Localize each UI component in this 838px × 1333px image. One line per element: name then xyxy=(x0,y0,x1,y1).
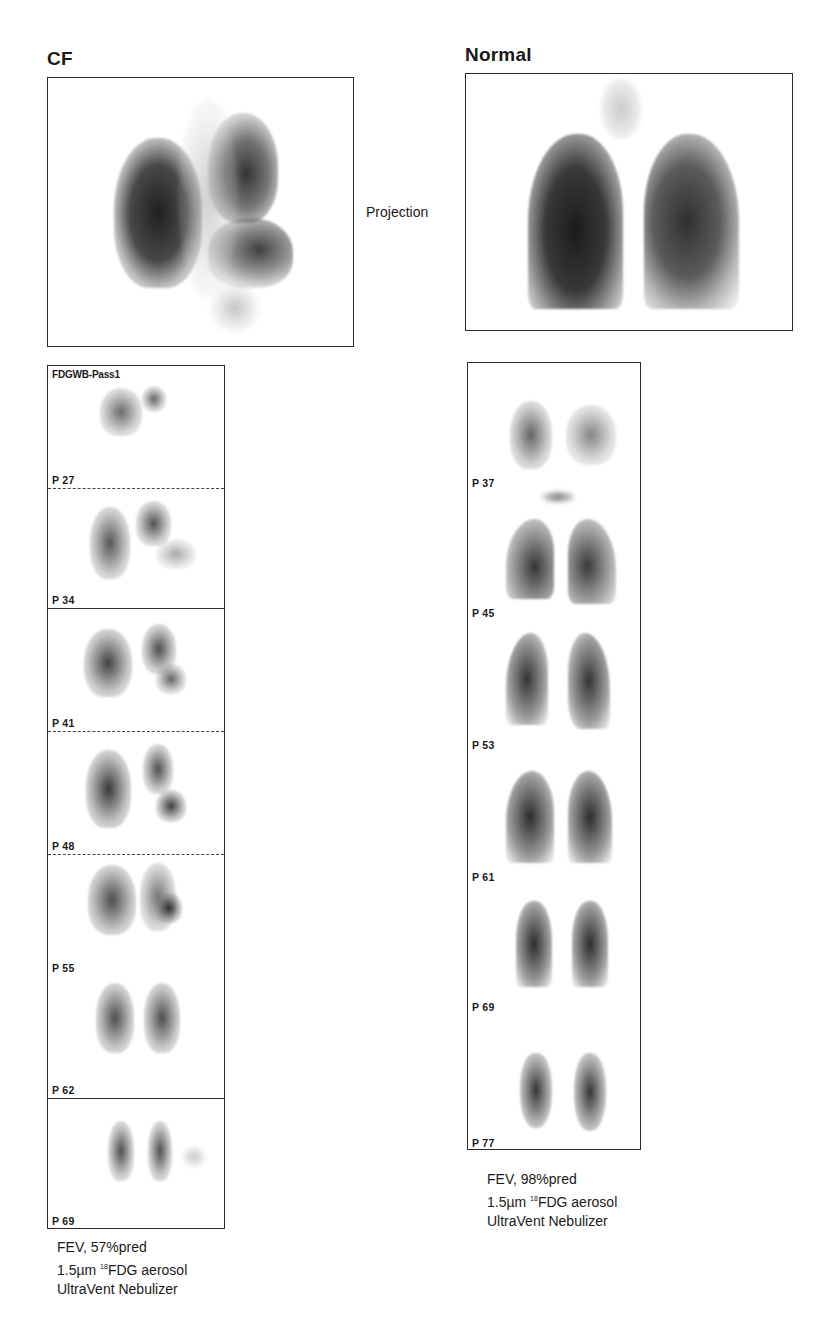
lung-uptake xyxy=(568,633,610,729)
slice-label: P 77 xyxy=(472,1137,495,1149)
normal-slice-p77: P 77 xyxy=(468,1015,640,1150)
normal-trachea-haze xyxy=(601,79,641,139)
lung-uptake xyxy=(572,901,608,987)
cf-slice-p55: P 55 xyxy=(48,854,224,976)
lung-uptake xyxy=(506,633,548,725)
cf-slice-p27: P 27 xyxy=(48,366,224,488)
lung-uptake xyxy=(506,771,554,863)
slice-label: P 55 xyxy=(52,962,75,974)
normal-projection-image xyxy=(465,73,793,331)
normal-slice-strip: P 37 P 45 P 53 P 61 P 69 P 77 xyxy=(467,362,641,1150)
normal-caption-aerosol: 1.5µm 18FDG aerosol xyxy=(487,1189,617,1212)
cf-slice-strip: FDGWB-Pass1 P 27 P 34 P 41 P 48 P 55 xyxy=(47,365,225,1001)
normal-slice-p69: P 69 xyxy=(468,885,640,1015)
normal-caption-nebulizer: UltraVent Nebulizer xyxy=(487,1212,617,1231)
normal-slice-p37: P 37 xyxy=(468,363,640,491)
cf-title: CF xyxy=(47,48,73,70)
normal-slice-p53: P 53 xyxy=(468,621,640,753)
cf-slice-p48: P 48 xyxy=(48,731,224,854)
cf-stomach-haze xyxy=(210,283,260,333)
normal-slice-p61: P 61 xyxy=(468,753,640,885)
cf-slice-p69: P 69 xyxy=(48,1098,224,1229)
slice-label: P 53 xyxy=(472,739,495,751)
lung-uptake xyxy=(516,901,552,987)
lung-uptake xyxy=(96,983,134,1053)
lung-uptake xyxy=(574,1053,606,1131)
slice-label: P 45 xyxy=(472,607,495,619)
normal-right-lung-uptake xyxy=(644,134,739,309)
cf-slice-strip-lower: P 62 P 69 xyxy=(47,975,225,1229)
slice-label: P 34 xyxy=(52,594,75,606)
cf-slice-p41: P 41 xyxy=(48,608,224,731)
cf-slice-p34: P 34 xyxy=(48,488,224,608)
projection-label: Projection xyxy=(366,204,428,220)
slice-label: P 37 xyxy=(472,477,495,489)
lung-uptake xyxy=(84,629,132,697)
cf-caption: FEV, 57%pred 1.5µm 18FDG aerosol UltraVe… xyxy=(57,1238,187,1299)
slice-label: P 62 xyxy=(52,1084,75,1096)
lung-uptake xyxy=(86,750,131,828)
cf-slice-p62: P 62 xyxy=(48,975,224,1098)
lung-uptake xyxy=(148,1121,172,1181)
normal-caption: FEV, 98%pred 1.5µm 18FDG aerosol UltraVe… xyxy=(487,1170,617,1231)
slice-label: P 61 xyxy=(472,871,495,883)
cf-projection-image xyxy=(47,77,354,347)
cf-mediastinum-haze xyxy=(178,98,238,298)
slice-label: P 48 xyxy=(52,840,75,852)
lung-uptake xyxy=(506,519,554,599)
normal-title: Normal xyxy=(465,44,532,66)
lung-uptake xyxy=(156,664,186,694)
lung-uptake xyxy=(510,401,552,469)
normal-slice-p45: P 45 xyxy=(468,491,640,621)
lung-uptake xyxy=(143,744,173,794)
lung-uptake xyxy=(156,790,186,822)
slice-label: P 69 xyxy=(52,1215,75,1227)
trachea-uptake xyxy=(542,491,574,503)
lung-uptake xyxy=(566,405,616,465)
slice-label: P 41 xyxy=(52,717,75,729)
cf-caption-nebulizer: UltraVent Nebulizer xyxy=(57,1280,187,1299)
cf-caption-aerosol: 1.5µm 18FDG aerosol xyxy=(57,1257,187,1280)
faint-uptake xyxy=(183,1147,205,1167)
normal-left-lung-uptake xyxy=(528,134,623,309)
lung-uptake xyxy=(90,507,130,579)
lung-uptake xyxy=(88,865,136,935)
slice-label: P 27 xyxy=(52,474,75,486)
cf-caption-fev: FEV, 57%pred xyxy=(57,1238,187,1257)
lung-uptake xyxy=(568,519,616,604)
lung-uptake xyxy=(520,1053,552,1128)
lung-uptake xyxy=(100,388,142,436)
normal-caption-fev: FEV, 98%pred xyxy=(487,1170,617,1189)
lung-uptake xyxy=(568,771,612,863)
slice-label: P 69 xyxy=(472,1001,495,1013)
lung-uptake xyxy=(144,983,180,1053)
lung-uptake xyxy=(142,386,166,412)
lung-uptake xyxy=(108,1121,134,1181)
lung-uptake xyxy=(156,539,196,569)
lung-uptake xyxy=(156,893,182,923)
lung-uptake xyxy=(136,501,171,546)
